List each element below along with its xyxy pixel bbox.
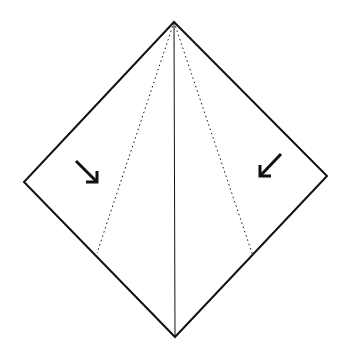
paper-outline: [24, 22, 327, 337]
origami-diagram: [0, 0, 355, 363]
